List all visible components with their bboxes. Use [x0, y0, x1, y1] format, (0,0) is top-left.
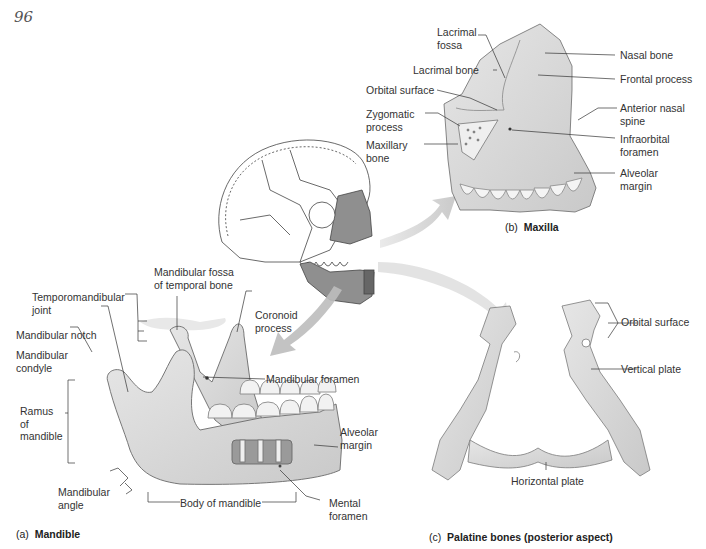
- label-mandibular-angle: Mandibular angle: [58, 486, 110, 511]
- label-vertical-plate: Vertical plate: [621, 363, 681, 376]
- label-coronoid-process: Coronoid process: [255, 309, 298, 334]
- label-maxillary-bone: Maxillary bone: [366, 139, 407, 164]
- caption-maxilla: (b) Maxilla: [505, 221, 559, 233]
- label-mandibular-condyle: Mandibular condyle: [16, 349, 68, 374]
- label-lacrimal-bone: Lacrimal bone: [413, 64, 479, 77]
- mandible-drawing: [107, 318, 342, 485]
- label-mandibular-fossa: Mandibular fossa of temporal bone: [154, 266, 234, 291]
- label-alveolar-margin-mandible: Alveolar margin: [340, 426, 378, 451]
- label-ramus-of-mandible: Ramus of mandible: [20, 405, 63, 443]
- label-temporomandibular-joint: Temporomandibular joint: [32, 291, 125, 316]
- label-anterior-nasal-spine: Anterior nasal spine: [620, 102, 685, 127]
- anatomy-illustration: [0, 0, 706, 549]
- label-infraorbital-foramen: Infraorbital foramen: [620, 133, 670, 158]
- label-zygomatic-process: Zygomatic process: [366, 108, 414, 133]
- caption-palatine: (c) Palatine bones (posterior aspect): [429, 531, 613, 543]
- label-lacrimal-fossa: Lacrimal fossa: [437, 26, 477, 51]
- handwritten-page-number: 96: [14, 8, 33, 26]
- label-alveolar-margin-maxilla: Alveolar margin: [620, 167, 658, 192]
- label-body-of-mandible: Body of mandible: [180, 497, 261, 510]
- maxilla-drawing: [444, 24, 596, 212]
- label-mandibular-notch: Mandibular notch: [16, 329, 97, 342]
- caption-mandible: (a) Mandible: [16, 528, 80, 540]
- label-orbital-surface-maxilla: Orbital surface: [366, 84, 434, 97]
- palatine-drawing: [432, 300, 650, 480]
- skull-drawing: [219, 140, 374, 304]
- label-horizontal-plate: Horizontal plate: [511, 475, 584, 488]
- label-orbital-surface-palatine: Orbital surface: [621, 316, 689, 329]
- label-mental-foramen: Mental foramen: [329, 497, 368, 522]
- label-nasal-bone: Nasal bone: [620, 49, 673, 62]
- label-frontal-process: Frontal process: [620, 73, 692, 86]
- label-mandibular-foramen: Mandibular foramen: [266, 373, 359, 386]
